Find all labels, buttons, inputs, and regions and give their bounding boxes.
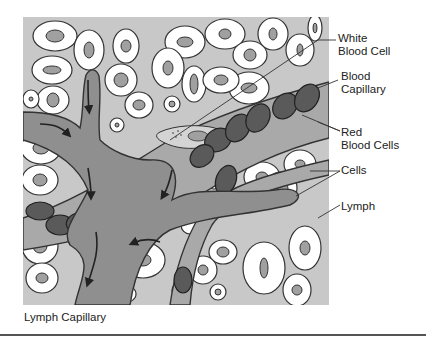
lymph-capillary-diagram: White Blood Cell Blood Capillary Red Blo… <box>0 0 426 338</box>
label-lymph: Lymph <box>341 200 375 213</box>
label-cells: Cells <box>341 164 367 177</box>
diagram-caption: Lymph Capillary <box>24 311 106 323</box>
label-blood-capillary: Blood Capillary <box>341 70 386 96</box>
divider <box>0 334 426 336</box>
label-white-blood-cell: White Blood Cell <box>338 32 390 58</box>
label-red-blood-cells: Red Blood Cells <box>341 126 399 152</box>
